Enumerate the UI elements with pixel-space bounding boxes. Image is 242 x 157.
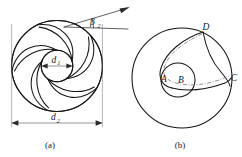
- point-b-label: B: [178, 75, 184, 85]
- point-d-label: D: [202, 22, 210, 32]
- blade: [45, 61, 98, 109]
- d2-subscript: 2: [57, 117, 60, 124]
- peripheral-reference-ray: [64, 27, 128, 29]
- beta2-symbol: β: [89, 17, 95, 27]
- impeller-figure-svg: β 2 d 1 d 2: [0, 0, 242, 157]
- caption-panel-b: (b): [175, 140, 186, 150]
- panel-b: A B C D (b): [132, 22, 238, 150]
- point-a-label: A: [160, 74, 167, 84]
- d1-dimension: d 1: [41, 55, 73, 68]
- beta2-label: β 2: [89, 17, 101, 29]
- panel-a: β 2 d 1 d 2: [11, 7, 129, 150]
- d2-symbol: d: [51, 112, 56, 122]
- blade: [53, 34, 106, 82]
- beta2-subscript: 2: [98, 22, 101, 29]
- blade: [24, 60, 64, 111]
- d1-symbol: d: [52, 55, 57, 65]
- caption-panel-a: (a): [45, 140, 55, 150]
- figure-root: β 2 d 1 d 2: [0, 0, 242, 157]
- d1-subscript: 1: [57, 59, 60, 66]
- point-c-label: C: [231, 73, 238, 83]
- blade-camber-dashdot-line: [164, 34, 229, 85]
- blade: [12, 46, 57, 73]
